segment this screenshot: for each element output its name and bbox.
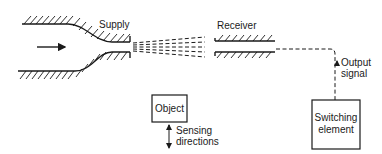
air-jet-beam (133, 37, 205, 57)
switching-label-line1: Switching (315, 112, 358, 123)
switching-label-line2: element (318, 124, 354, 135)
output-label-line2: signal (341, 68, 367, 79)
sensor-diagram: Supply Receiver Output signal Swit (0, 0, 382, 154)
object-label: Object (155, 103, 184, 114)
output-signal-line (276, 49, 335, 100)
sensing-label-line2: directions (176, 136, 219, 147)
receiver-label: Receiver (217, 20, 257, 31)
output-label-line1: Output (341, 57, 371, 68)
supply-label: Supply (99, 19, 130, 30)
sensing-label-line1: Sensing (176, 125, 212, 136)
receiver-tube (215, 35, 275, 58)
